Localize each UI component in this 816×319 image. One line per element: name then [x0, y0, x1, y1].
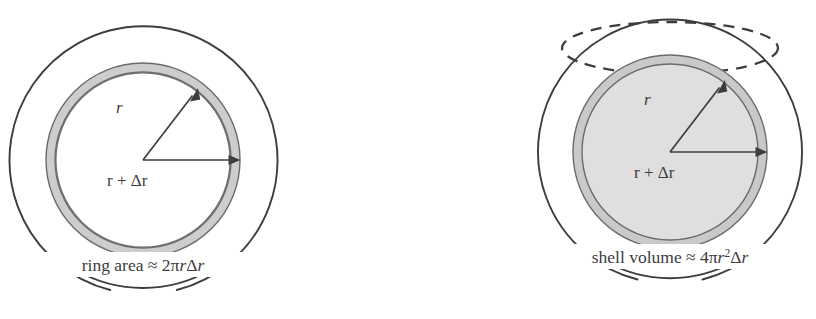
ring-caption-approx: ≈	[148, 255, 158, 275]
ring-caption: ring area ≈ 2πrΔr	[82, 255, 205, 275]
ring-caption-prefix: ring area	[82, 255, 144, 275]
shell-diagram-panel: r r + Δr shell volume ≈ 4πr2Δr	[408, 0, 816, 319]
ring-label-r: r	[116, 98, 123, 117]
shell-caption-approx: ≈	[686, 247, 696, 267]
shell-label-r-plus-dr: r + Δr	[634, 163, 675, 182]
shell-caption-prefix: shell volume	[592, 247, 682, 267]
ring-caption-delta: Δ	[186, 255, 197, 275]
ring-label-r-plus-dr: r + Δr	[107, 171, 148, 190]
shell-caption-delta: Δ	[730, 247, 741, 267]
shell-caption-dr: r	[741, 247, 748, 267]
shell-caption-coefficient: 4	[700, 247, 709, 267]
ring-diagram-panel: r r + Δr ring area ≈ 2πrΔr	[0, 0, 408, 319]
ring-caption-pi: π	[171, 255, 180, 275]
ring-caption-dr: r	[197, 255, 204, 275]
figure-root: r r + Δr ring area ≈ 2πrΔr	[0, 0, 816, 319]
ring-caption-coefficient: 2	[162, 255, 171, 275]
shell-label-r: r	[644, 90, 651, 109]
shell-caption-pi: π	[709, 247, 718, 267]
